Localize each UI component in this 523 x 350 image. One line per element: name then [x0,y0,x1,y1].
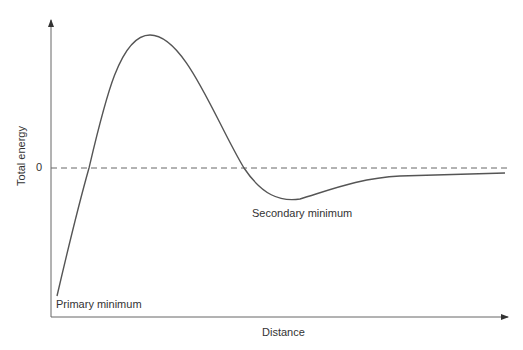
zero-tick-label: 0 [36,161,42,173]
secondary-minimum-label: Secondary minimum [252,207,352,219]
primary-minimum-label: Primary minimum [56,298,142,310]
y-axis-label: Total energy [15,121,27,191]
x-axis-label: Distance [262,326,305,338]
energy-curve [57,35,505,296]
